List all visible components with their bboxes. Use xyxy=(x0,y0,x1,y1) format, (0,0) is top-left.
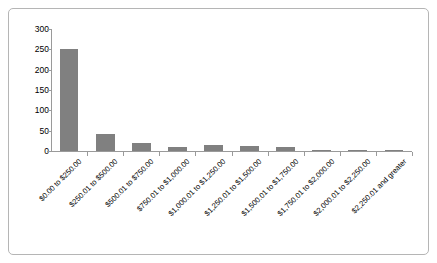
x-axis-tick-mark xyxy=(87,152,88,156)
y-axis-tick-mark xyxy=(47,70,51,71)
bar xyxy=(385,150,404,151)
bar-chart: 050100150200250300 $0.00 to $250.00$250.… xyxy=(9,9,430,256)
x-axis-tick-mark xyxy=(268,152,269,156)
y-axis-tick-mark xyxy=(47,90,51,91)
bar xyxy=(312,150,331,151)
y-axis-tick-label: 150 xyxy=(23,86,49,94)
y-axis-tick-mark xyxy=(47,151,51,152)
x-axis-tick-mark xyxy=(376,152,377,156)
y-axis-tick-label: 0 xyxy=(23,147,49,155)
bars-container xyxy=(51,29,412,151)
y-axis-tick-label: 300 xyxy=(23,25,49,33)
x-axis-tick-mark xyxy=(232,152,233,156)
bar xyxy=(276,147,295,151)
y-axis-tick-mark xyxy=(47,110,51,111)
x-axis-tick-mark xyxy=(159,152,160,156)
x-axis-tick-mark xyxy=(412,152,413,156)
y-axis-tick-mark xyxy=(47,131,51,132)
x-axis-tick-mark xyxy=(123,152,124,156)
bar xyxy=(132,143,151,151)
x-axis-category-labels: $0.00 to $250.00$250.01 to $500.00$500.0… xyxy=(51,157,431,252)
bar xyxy=(348,150,367,151)
y-axis-tick-label: 250 xyxy=(23,45,49,53)
chart-frame: 050100150200250300 $0.00 to $250.00$250.… xyxy=(8,8,429,255)
bar xyxy=(204,145,223,151)
y-axis-tick-label: 100 xyxy=(23,106,49,114)
bar xyxy=(96,134,115,151)
y-axis-tick-mark xyxy=(47,29,51,30)
x-axis-tick-mark xyxy=(195,152,196,156)
y-axis-tick-mark xyxy=(47,49,51,50)
bar xyxy=(60,49,79,151)
bar xyxy=(240,146,259,151)
bar xyxy=(168,147,187,151)
x-axis-tick-mark xyxy=(340,152,341,156)
x-axis-tick-mark xyxy=(304,152,305,156)
y-axis-tick-label: 50 xyxy=(23,127,49,135)
y-axis-tick-label: 200 xyxy=(23,66,49,74)
y-axis-tick-labels: 050100150200250300 xyxy=(23,25,49,153)
